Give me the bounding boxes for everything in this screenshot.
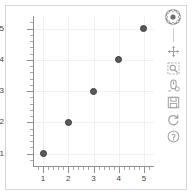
x-axis-tick bbox=[68, 167, 69, 173]
data-point[interactable] bbox=[140, 25, 147, 32]
gridline bbox=[33, 122, 154, 123]
x-axis-tick bbox=[119, 167, 120, 173]
x-axis-minor-tick bbox=[139, 167, 140, 170]
data-point[interactable] bbox=[40, 150, 47, 157]
x-axis-tick-label: 2 bbox=[61, 175, 75, 183]
y-axis-minor-tick bbox=[30, 22, 33, 23]
plot-toolbar[interactable] bbox=[160, 6, 186, 192]
y-axis-minor-tick bbox=[30, 72, 33, 73]
y-axis-line bbox=[33, 16, 34, 166]
x-axis-minor-tick bbox=[134, 167, 135, 170]
y-axis-minor-tick bbox=[30, 35, 33, 36]
wheel-zoom-tool-icon[interactable] bbox=[165, 77, 182, 94]
y-axis-minor-tick bbox=[30, 47, 33, 48]
x-axis-minor-tick bbox=[38, 167, 39, 170]
pan-tool-icon[interactable] bbox=[165, 43, 182, 60]
y-axis-minor-tick bbox=[30, 135, 33, 136]
y-axis-minor-tick bbox=[30, 66, 33, 67]
x-axis-tick-label: 3 bbox=[87, 175, 101, 183]
y-axis-tick bbox=[27, 91, 33, 92]
x-axis-tick-label: 1 bbox=[36, 175, 50, 183]
x-axis-minor-tick bbox=[88, 167, 89, 170]
plot-canvas[interactable]: 12345 12345 bbox=[6, 6, 161, 189]
x-axis-minor-tick bbox=[129, 167, 130, 170]
y-axis-tick-label: 3 bbox=[0, 87, 4, 95]
y-axis-minor-tick bbox=[30, 79, 33, 80]
x-axis-minor-tick bbox=[73, 167, 74, 170]
y-axis-tick-label: 5 bbox=[0, 25, 4, 33]
x-axis-minor-tick bbox=[104, 167, 105, 170]
bokeh-logo-icon[interactable] bbox=[165, 9, 181, 25]
y-axis-tick bbox=[27, 60, 33, 61]
toolbar-divider bbox=[173, 28, 174, 42]
data-point[interactable] bbox=[90, 88, 97, 95]
y-axis-minor-tick bbox=[30, 116, 33, 117]
x-axis-tick bbox=[43, 167, 44, 173]
save-tool-icon[interactable] bbox=[165, 94, 182, 111]
x-axis-minor-tick bbox=[83, 167, 84, 170]
data-point[interactable] bbox=[115, 56, 122, 63]
y-axis-tick-label: 1 bbox=[0, 150, 4, 158]
box-zoom-tool-icon[interactable] bbox=[165, 60, 182, 77]
y-axis-minor-tick bbox=[30, 129, 33, 130]
help-tool-icon[interactable] bbox=[165, 128, 182, 145]
x-axis-minor-tick bbox=[114, 167, 115, 170]
y-axis-minor-tick bbox=[30, 54, 33, 55]
y-axis-tick-label: 2 bbox=[0, 118, 4, 126]
reset-tool-icon[interactable] bbox=[165, 111, 182, 128]
x-axis-tick-label: 5 bbox=[137, 175, 151, 183]
y-axis-tick bbox=[27, 29, 33, 30]
x-axis-minor-tick bbox=[109, 167, 110, 170]
x-axis-minor-tick bbox=[78, 167, 79, 170]
gridline bbox=[33, 29, 154, 30]
y-axis-tick-label: 4 bbox=[0, 56, 4, 64]
y-axis-minor-tick bbox=[30, 160, 33, 161]
gridline bbox=[33, 60, 154, 61]
y-axis-minor-tick bbox=[30, 141, 33, 142]
x-axis-minor-tick bbox=[63, 167, 64, 170]
y-axis-minor-tick bbox=[30, 147, 33, 148]
y-axis-tick bbox=[27, 154, 33, 155]
x-axis-minor-tick bbox=[99, 167, 100, 170]
x-axis-minor-tick bbox=[149, 167, 150, 170]
x-axis-minor-tick bbox=[124, 167, 125, 170]
x-axis-minor-tick bbox=[48, 167, 49, 170]
plot-data-frame[interactable] bbox=[33, 16, 154, 166]
y-axis-minor-tick bbox=[30, 97, 33, 98]
x-axis-minor-tick bbox=[53, 167, 54, 170]
x-axis-minor-tick bbox=[58, 167, 59, 170]
gridline bbox=[33, 154, 154, 155]
x-axis-tick bbox=[94, 167, 95, 173]
data-point[interactable] bbox=[65, 119, 72, 126]
x-axis-tick bbox=[144, 167, 145, 173]
y-axis-tick bbox=[27, 122, 33, 123]
y-axis-minor-tick bbox=[30, 85, 33, 86]
y-axis-minor-tick bbox=[30, 110, 33, 111]
y-axis-minor-tick bbox=[30, 41, 33, 42]
y-axis-minor-tick bbox=[30, 104, 33, 105]
bokeh-figure: 12345 12345 bbox=[5, 5, 187, 190]
x-axis-tick-label: 4 bbox=[112, 175, 126, 183]
